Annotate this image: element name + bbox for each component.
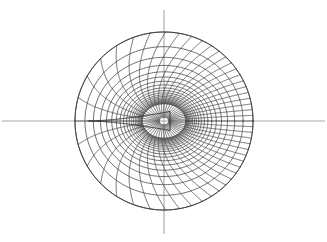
axes-group [2,10,325,234]
figure-root [0,0,327,242]
conformal-map-plot [0,0,327,242]
